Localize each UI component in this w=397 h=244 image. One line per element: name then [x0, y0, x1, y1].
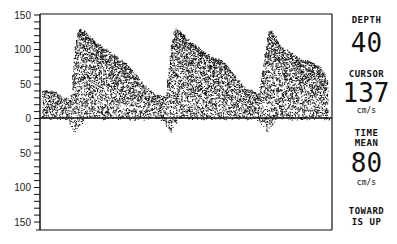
svg-text:0: 0	[25, 113, 31, 124]
svg-text:100: 100	[14, 44, 31, 55]
svg-text:50: 50	[20, 79, 32, 90]
cursor-value: 137	[332, 80, 397, 106]
doppler-spectrum-dots	[42, 29, 330, 133]
depth-value: 40	[336, 30, 397, 56]
mean-value: 80	[336, 150, 397, 176]
y-axis-ticks	[34, 15, 40, 222]
direction-line1: TOWARD	[336, 206, 397, 216]
direction-line2: IS UP	[336, 217, 397, 227]
time-label: TIME	[336, 128, 397, 138]
mean-label: MEAN	[336, 138, 397, 148]
chart-axes	[36, 14, 332, 230]
depth-label: DEPTH	[336, 15, 397, 25]
svg-text:50: 50	[20, 148, 32, 159]
svg-text:100: 100	[14, 182, 31, 193]
svg-text:150: 150	[14, 217, 31, 228]
cursor-unit: cm/s	[336, 106, 397, 115]
mean-unit: cm/s	[336, 178, 397, 187]
svg-text:150: 150	[14, 10, 31, 21]
y-axis-tick-labels: 15010050050100150	[14, 10, 31, 228]
